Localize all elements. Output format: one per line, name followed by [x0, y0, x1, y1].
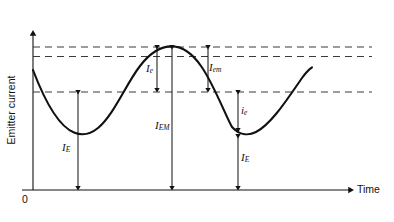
- label-IE-left-subscript: E: [66, 145, 71, 154]
- label-ie-upper-left-subscript: e: [150, 66, 153, 75]
- figure-canvas: [0, 0, 394, 222]
- label-iem-upper-right-subscript: em: [213, 65, 222, 74]
- label-iem-upper-right: Iem: [209, 62, 222, 74]
- axes-group: [22, 32, 352, 190]
- x-axis-label: Time: [357, 184, 380, 195]
- label-iEM-center: IEM: [155, 120, 170, 132]
- label-iEM-center-subscript: EM: [159, 123, 170, 132]
- label-ie-right: ie: [241, 105, 248, 117]
- waveform-figure: Emitter current Time 0 Ie Iem IEM IE ie …: [0, 0, 394, 222]
- y-axis-label: Emitter current: [4, 62, 18, 158]
- label-ie-right-subscript: e: [244, 108, 247, 117]
- label-IE-left: IE: [62, 142, 70, 154]
- y-axis-label-text: Emitter current: [5, 76, 17, 145]
- label-ie-upper-left: Ie: [146, 63, 153, 75]
- origin-label: 0: [22, 194, 28, 205]
- label-IE-right-subscript: E: [245, 155, 250, 164]
- label-IE-right: IE: [241, 152, 249, 164]
